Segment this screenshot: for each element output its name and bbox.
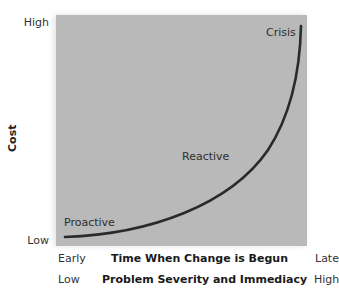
crisis-label: Crisis (266, 26, 296, 39)
x-tick-high: High (314, 273, 339, 286)
proactive-label: Proactive (64, 216, 115, 229)
y-tick-high: High (24, 16, 49, 29)
x-tick-early: Early (58, 252, 86, 265)
y-axis-title: Cost (6, 125, 19, 152)
reactive-label: Reactive (182, 150, 229, 163)
y-tick-low: Low (27, 234, 49, 247)
x-tick-late: Late (315, 252, 339, 265)
cost-curve (65, 26, 301, 237)
x-axis-title-secondary: Problem Severity and Immediacy (102, 273, 307, 286)
x-tick-low: Low (58, 273, 80, 286)
x-axis-title-primary: Time When Change is Begun (111, 252, 288, 265)
